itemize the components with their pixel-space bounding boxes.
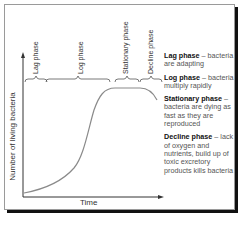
brace-lag [25, 76, 47, 82]
phase-label-decline: Decline phase [147, 30, 154, 74]
y-axis-arrow-icon [21, 52, 25, 58]
x-axis-arrow-icon [158, 195, 164, 199]
brace-log [46, 76, 110, 82]
legend-item-lag: Lag phase – bacteria are adapting [164, 52, 234, 69]
brace-decline [140, 76, 162, 82]
phase-label-log: Log phase [77, 41, 84, 74]
phase-label-lag: Lag phase [32, 41, 39, 74]
phase-braces [25, 76, 162, 82]
legend-item-decline: Decline phase – lack of oxygen and nutri… [164, 133, 234, 174]
legend-item-log: Log phase – bacteria multiply rapidly [164, 74, 234, 91]
growth-curve-line [24, 88, 157, 193]
legend-item-stationary: Stationary phase – bacteria are dying as… [164, 95, 234, 128]
phase-legend: Lag phase – bacteria are adapting Log ph… [164, 52, 234, 180]
phase-label-stationary: Stationary phase [122, 21, 129, 74]
legend-desc: bacteria are dying as fast as they are r… [164, 102, 231, 128]
y-axis-label: Number of living bacteria [8, 87, 17, 187]
brace-stationary [115, 76, 139, 82]
x-axis-label: Time [80, 198, 97, 207]
